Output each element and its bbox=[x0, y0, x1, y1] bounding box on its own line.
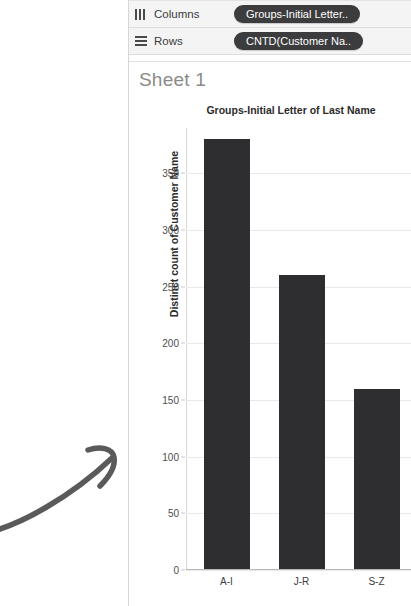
rows-shelf-label-group: Rows bbox=[129, 35, 229, 47]
worksheet-title[interactable]: Sheet 1 bbox=[139, 69, 206, 91]
y-axis-tick-mark bbox=[181, 286, 185, 287]
y-axis-tick-mark bbox=[181, 230, 185, 231]
y-axis-tick-mark bbox=[181, 400, 185, 401]
hand-drawn-arrow-icon bbox=[0, 430, 130, 540]
rows-shelf-icon bbox=[135, 36, 148, 47]
y-axis-tick-mark bbox=[181, 173, 185, 174]
bar-s-z[interactable] bbox=[354, 389, 400, 569]
columns-shelf-label-group: Columns bbox=[129, 8, 229, 20]
y-axis-tick-mark bbox=[181, 513, 185, 514]
x-axis-tick-label: S-Z bbox=[368, 576, 384, 587]
y-axis-tick-label: 300 bbox=[162, 225, 179, 236]
x-axis-tick-label: J-R bbox=[294, 576, 310, 587]
columns-shelf-icon bbox=[135, 9, 148, 20]
bar-a-i[interactable] bbox=[204, 139, 250, 569]
tableau-worksheet-panel: Columns Groups-Initial Letter.. Rows CNT… bbox=[128, 0, 410, 606]
gridline bbox=[186, 570, 411, 571]
y-axis-tick-mark bbox=[181, 570, 185, 571]
rows-shelf-label: Rows bbox=[154, 35, 183, 47]
rows-pill-cntd-customer-name[interactable]: CNTD(Customer Na.. bbox=[234, 32, 363, 50]
y-axis-tick-label: 0 bbox=[173, 565, 179, 576]
bar-j-r[interactable] bbox=[279, 275, 325, 569]
columns-pill-groups-initial-letter[interactable]: Groups-Initial Letter.. bbox=[234, 5, 360, 23]
y-axis-tick-mark bbox=[181, 343, 185, 344]
chart-title: Groups-Initial Letter of Last Name bbox=[129, 104, 411, 116]
y-axis-tick-label: 100 bbox=[162, 451, 179, 462]
rows-shelf[interactable]: Rows CNTD(Customer Na.. bbox=[129, 28, 411, 55]
y-axis-tick-label: 150 bbox=[162, 395, 179, 406]
shelf-divider bbox=[129, 55, 411, 62]
annotation-layer bbox=[0, 0, 130, 606]
y-axis-tick-mark bbox=[181, 456, 185, 457]
y-axis-tick-label: 250 bbox=[162, 281, 179, 292]
y-axis-tick-label: 200 bbox=[162, 338, 179, 349]
shelf-strip: Columns Groups-Initial Letter.. Rows CNT… bbox=[129, 0, 411, 62]
columns-shelf-label: Columns bbox=[154, 8, 199, 20]
y-axis-tick-label: 50 bbox=[168, 508, 179, 519]
columns-shelf[interactable]: Columns Groups-Initial Letter.. bbox=[129, 0, 411, 28]
x-axis-tick-label: A-I bbox=[220, 576, 233, 587]
y-axis-line bbox=[186, 128, 187, 570]
y-axis-tick-label: 350 bbox=[162, 168, 179, 179]
chart-plot-area: 050100150200250300350 A-IJ-RS-Z bbox=[186, 128, 411, 570]
